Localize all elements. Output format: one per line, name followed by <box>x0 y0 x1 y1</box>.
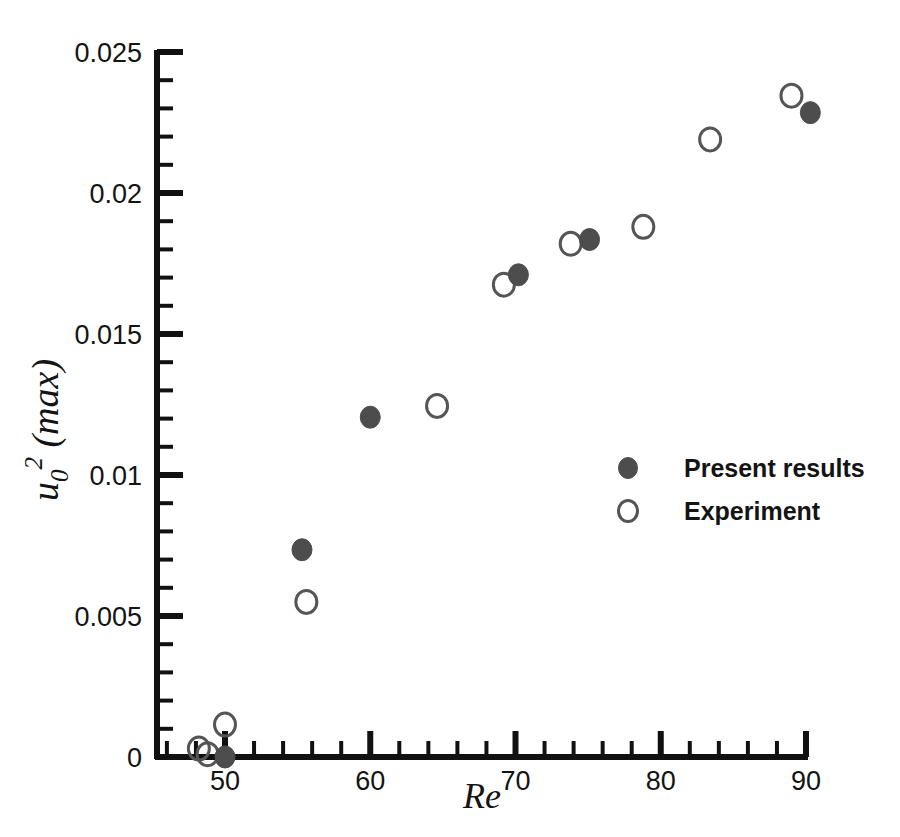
x-tick-label: 70 <box>500 766 530 796</box>
x-tick-label: 80 <box>646 766 676 796</box>
scatter-plot: 00.0050.010.0150.020.025 5060708090 Re u… <box>0 0 900 837</box>
data-point-present-results <box>360 406 380 428</box>
figure-container: 00.0050.010.0150.020.025 5060708090 Re u… <box>0 0 900 837</box>
y-tick-label: 0.02 <box>89 179 142 209</box>
y-axis-title-max: (max) <box>24 359 67 448</box>
y-axis-major-ticks <box>157 52 183 757</box>
y-tick-label: 0.015 <box>74 320 142 350</box>
data-point-experiment <box>633 215 654 238</box>
x-axis-title-text: Re <box>462 776 501 816</box>
plot-axes <box>155 50 808 759</box>
y-tick-label: 0.01 <box>89 461 142 491</box>
y-axis-title-superscript: 2 <box>20 457 47 470</box>
legend-marker-filled-circle-icon <box>619 458 638 479</box>
data-point-present-results <box>292 539 312 561</box>
series-experiment-markers <box>188 84 802 765</box>
legend-marker-open-circle-icon <box>619 501 638 522</box>
x-tick-label: 50 <box>210 766 240 796</box>
data-point-present-results <box>215 746 235 768</box>
series-present-results-markers <box>215 102 820 768</box>
y-tick-label: 0.025 <box>74 38 142 68</box>
y-axis-title-base: u <box>24 482 66 501</box>
data-point-experiment <box>296 590 317 613</box>
data-point-present-results <box>508 264 528 286</box>
data-point-experiment <box>560 232 581 255</box>
data-point-experiment <box>700 128 721 151</box>
y-axis-tick-labels: 00.0050.010.0150.020.025 <box>74 38 142 773</box>
data-point-experiment <box>427 394 448 417</box>
x-axis-tick-labels: 5060708090 <box>210 766 821 796</box>
x-axis-title: Re <box>462 776 501 816</box>
y-axis-title: u02 (max) <box>20 359 73 501</box>
y-axis-title-suffix <box>24 448 66 458</box>
y-axis-title-text: u02 (max) <box>20 359 73 501</box>
y-tick-label: 0.005 <box>74 602 142 632</box>
legend-label: Experiment <box>684 497 821 525</box>
x-tick-label: 90 <box>791 766 821 796</box>
y-tick-label: 0 <box>127 743 142 773</box>
data-point-experiment <box>781 84 802 107</box>
y-axis-title-subscript: 0 <box>46 469 73 482</box>
data-point-present-results <box>580 229 600 251</box>
x-tick-label: 60 <box>355 766 385 796</box>
legend-label: Present results <box>684 454 865 482</box>
data-point-present-results <box>800 102 820 124</box>
legend: Present resultsExperiment <box>619 454 865 525</box>
